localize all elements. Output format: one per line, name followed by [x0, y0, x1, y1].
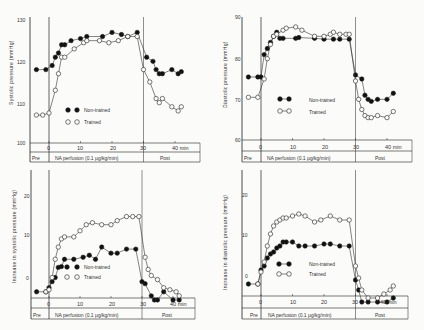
legend-trained: Trained	[309, 271, 326, 277]
trained-point	[148, 80, 152, 84]
non-trained-point	[144, 55, 148, 59]
legend-filled-circle-icon	[66, 108, 71, 113]
legend-non-trained: Non-trained	[84, 107, 110, 113]
non-trained-point	[72, 257, 76, 261]
trained-point	[369, 115, 373, 119]
y-tick: 120	[17, 59, 25, 65]
trained-point	[388, 288, 392, 292]
trained-point	[256, 282, 260, 286]
non-trained-point	[265, 46, 269, 50]
trained-point	[170, 105, 174, 109]
phase-pre-label: Pre	[33, 312, 41, 318]
trained-point	[116, 38, 120, 42]
non-trained-point	[119, 32, 123, 36]
non-trained-point	[155, 298, 159, 302]
y-axis-label: Increase in diastolic pressure (mmHg)	[222, 195, 228, 290]
non-trained-point	[328, 242, 332, 246]
trained-point	[262, 260, 266, 264]
non-trained-point	[360, 300, 364, 304]
non-trained-point	[312, 244, 316, 248]
legend-non-trained: Non-trained	[84, 264, 110, 270]
legend-filled-circle-icon	[65, 265, 70, 270]
legend-open-circle-icon	[278, 109, 283, 114]
trained-point	[56, 72, 60, 76]
legend-open-circle-icon	[287, 272, 292, 277]
legend-filled-circle-icon	[75, 265, 80, 270]
non-trained-point	[110, 30, 114, 34]
y-axis-label: Diastolic pressure (mmHg)	[222, 41, 228, 108]
trained-point	[391, 109, 395, 113]
non-trained-point	[81, 255, 85, 259]
trained-point	[382, 292, 386, 296]
x-tick: 0	[47, 301, 50, 307]
trained-point	[338, 32, 342, 36]
trained-point	[319, 218, 323, 222]
x-tick: 20	[322, 144, 328, 150]
trained-point	[100, 223, 104, 227]
trained-point	[356, 97, 360, 101]
trained-point	[47, 111, 51, 115]
trained-point	[84, 223, 88, 227]
legend-open-circle-icon	[66, 120, 71, 125]
trained-point	[146, 267, 150, 271]
non-trained-point	[62, 257, 66, 261]
y-tick: 0	[26, 275, 29, 281]
x-tick: 10	[290, 144, 296, 150]
trained-point	[162, 286, 166, 290]
y-tick: 20	[24, 193, 30, 199]
non-trained-point	[297, 35, 301, 39]
y-tick: 70	[235, 97, 241, 103]
trained-point	[259, 270, 263, 274]
trained-point	[179, 105, 183, 109]
non-trained-point	[56, 51, 60, 55]
legend-open-circle-icon	[65, 275, 70, 280]
trained-point	[347, 218, 351, 222]
panel-diastolic: Diastolic pressure (mmHg) 90 80 70 60 0 …	[212, 0, 424, 165]
trained-point	[290, 214, 294, 218]
legend-filled-circle-icon	[287, 97, 292, 102]
trained-point	[115, 218, 119, 222]
non-trained-point	[284, 240, 288, 244]
trained-point	[353, 264, 357, 268]
x-tick: 40 min	[380, 299, 397, 305]
trained-point	[366, 296, 370, 300]
phase-pre-label: Pre	[32, 155, 40, 161]
non-trained-point	[322, 242, 326, 246]
trained-point	[34, 113, 38, 117]
non-trained-point	[347, 37, 351, 41]
phase-na-label: NA perfusion (0.1 µg/kg/min)	[267, 155, 330, 161]
trained-point	[246, 95, 250, 99]
trained-point	[154, 96, 158, 100]
trained-point	[256, 95, 260, 99]
trained-point	[275, 32, 279, 36]
x-tick: 40 min	[172, 145, 189, 151]
trained-point	[149, 273, 153, 277]
x-tick: 20	[109, 301, 115, 307]
trained-point	[72, 235, 76, 239]
non-trained-point	[124, 247, 128, 251]
trained-point	[347, 32, 351, 36]
trained-point	[328, 214, 332, 218]
phase-post-label: Post	[375, 312, 385, 318]
x-tick: 30	[140, 145, 146, 151]
non-trained-point	[85, 34, 89, 38]
trained-point	[155, 277, 159, 281]
phase-post-label: Post	[160, 155, 170, 161]
y-tick: 10	[242, 232, 248, 238]
y-tick: 10	[24, 232, 30, 238]
legend-open-circle-icon	[75, 120, 80, 125]
trained-point	[126, 34, 130, 38]
increase-diastolic-chart-svg	[212, 165, 424, 330]
x-tick: 10	[77, 301, 83, 307]
phase-pre-label: Pre	[244, 155, 252, 161]
non-trained-point	[375, 97, 379, 101]
non-trained-point	[134, 247, 138, 251]
legend-trained: Trained	[84, 274, 101, 280]
non-trained-point	[115, 251, 119, 255]
x-tick: 40 min	[170, 301, 187, 307]
legend-trained: Trained	[84, 119, 101, 125]
trained-point	[268, 232, 272, 236]
trained-point	[265, 244, 269, 248]
non-trained-point	[303, 244, 307, 248]
non-trained-point	[53, 55, 57, 59]
